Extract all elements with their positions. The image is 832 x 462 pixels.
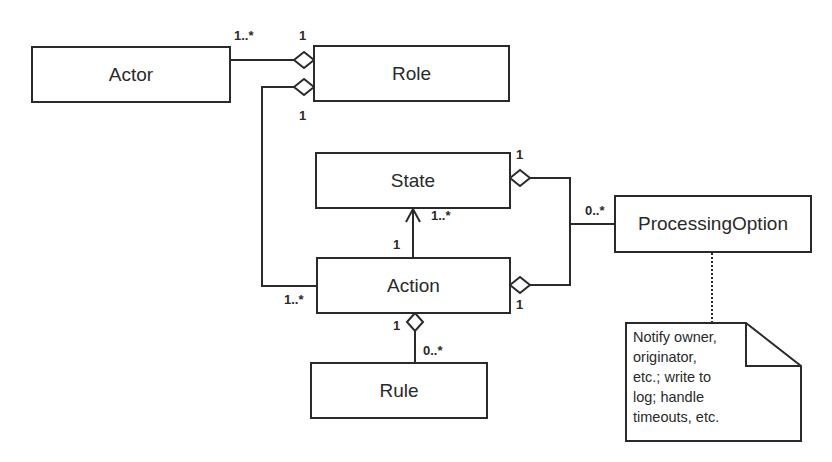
aggregation-diamond-icon bbox=[294, 52, 314, 68]
class-rule: Rule bbox=[310, 362, 488, 419]
class-label: State bbox=[391, 170, 435, 192]
class-actor: Actor bbox=[31, 46, 231, 103]
note-text: Notify owner, originator, etc.; write to… bbox=[633, 327, 719, 427]
note-line: etc.; write to bbox=[633, 367, 719, 387]
class-label: Role bbox=[392, 63, 431, 85]
class-label: Rule bbox=[379, 380, 418, 402]
class-action: Action bbox=[316, 257, 511, 314]
aggregation-diamond-icon bbox=[510, 277, 530, 293]
aggregation-diamond-icon bbox=[510, 170, 530, 186]
multiplicity-label: 0..* bbox=[585, 203, 605, 218]
note-line: log; handle bbox=[633, 387, 719, 407]
class-state: State bbox=[315, 152, 511, 209]
multiplicity-label: 1 bbox=[516, 147, 523, 162]
note-line: Notify owner, bbox=[633, 327, 719, 347]
class-label: Action bbox=[387, 275, 440, 297]
po-bracket-line bbox=[530, 178, 570, 285]
note-line: timeouts, etc. bbox=[633, 407, 719, 427]
multiplicity-label: 1..* bbox=[284, 292, 304, 307]
multiplicity-label: 1 bbox=[393, 318, 400, 333]
multiplicity-label: 1 bbox=[393, 237, 400, 252]
class-processing-option: ProcessingOption bbox=[614, 195, 812, 253]
class-role: Role bbox=[313, 45, 510, 102]
aggregation-diamond-icon bbox=[294, 79, 314, 95]
multiplicity-label: 1 bbox=[516, 297, 523, 312]
multiplicity-label: 1 bbox=[299, 108, 306, 123]
multiplicity-label: 1..* bbox=[431, 208, 451, 223]
class-label: Actor bbox=[109, 64, 153, 86]
note-line: originator, bbox=[633, 347, 719, 367]
multiplicity-label: 1..* bbox=[234, 28, 254, 43]
multiplicity-label: 1 bbox=[299, 28, 306, 43]
aggregation-diamond-icon bbox=[407, 313, 423, 331]
class-label: ProcessingOption bbox=[638, 213, 788, 235]
multiplicity-label: 0..* bbox=[423, 343, 443, 358]
role-action-association bbox=[262, 87, 316, 286]
